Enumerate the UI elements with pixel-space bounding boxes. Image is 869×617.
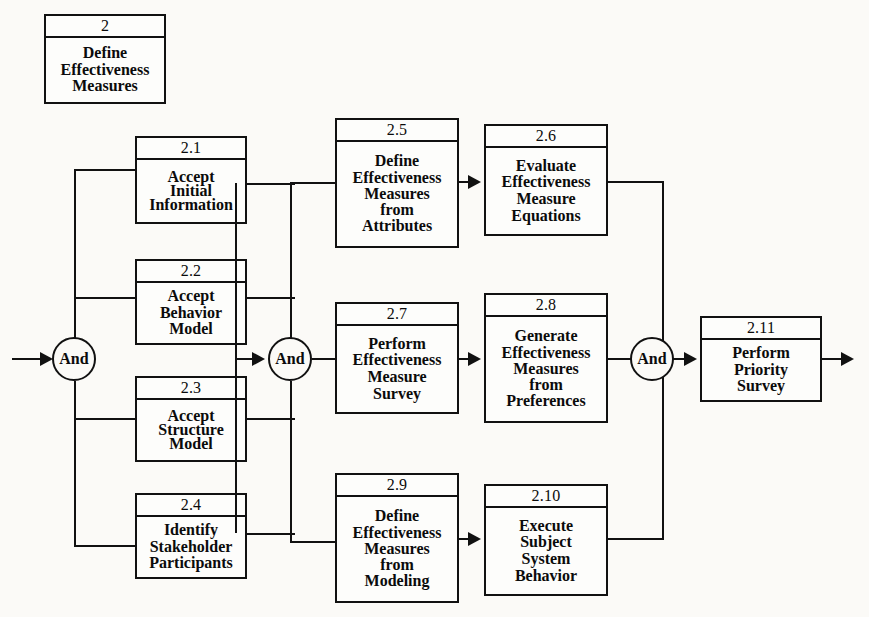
connector-and2-to-2-5 <box>290 182 337 184</box>
box-number: 2.11 <box>702 318 820 340</box>
and-gate-label: And <box>275 350 304 368</box>
arrowhead-2-7-to-2-8 <box>468 352 481 366</box>
connector-and1-to-2-2 <box>74 297 137 299</box>
and-gate-3: And <box>630 337 674 381</box>
and-gate-label: And <box>59 350 88 368</box>
process-box-2-7: 2.7 Perform Effectiveness Measure Survey <box>335 302 459 414</box>
box-label: Execute Subject System Behavior <box>486 508 606 594</box>
connector-and1-spine-down <box>74 381 76 546</box>
process-box-2-10: 2.10 Execute Subject System Behavior <box>484 484 608 596</box>
box-number: 2 <box>46 16 164 38</box>
arrowhead-input-and1 <box>40 352 53 366</box>
box-label: Define Effectiveness Measures from Model… <box>337 497 457 601</box>
box-number: 2.3 <box>137 378 245 400</box>
connector-2-4-out <box>245 533 295 535</box>
process-box-2-8: 2.8 Generate Effectiveness Measures from… <box>484 293 608 423</box>
box-label: Evaluate Effectiveness Measure Equations <box>486 148 606 234</box>
and-gate-label: And <box>637 350 666 368</box>
process-box-2-3: 2.3 Accept Structure Model <box>135 376 247 462</box>
process-box-2: 2 Define Effectiveness Measures <box>44 14 166 104</box>
process-box-2-1: 2.1 Accept Initial Information <box>135 136 247 224</box>
connector-and1-to-2-3 <box>74 418 137 420</box>
arrowhead-2-5-to-2-6 <box>468 175 481 189</box>
process-box-2-4: 2.4 Identify Stakeholder Participants <box>135 493 247 579</box>
box-label: Identify Stakeholder Participants <box>137 517 245 577</box>
box-number: 2.8 <box>486 295 606 317</box>
box-label: Perform Priority Survey <box>702 340 820 400</box>
box-number: 2.9 <box>337 475 457 497</box>
process-box-2-5: 2.5 Define Effectiveness Measures from A… <box>335 118 459 248</box>
process-box-2-2: 2.2 Accept Behavior Model <box>135 259 247 345</box>
flowchart-canvas: 2 Define Effectiveness Measures 2.1 Acce… <box>0 0 869 617</box>
arrowhead-2-9-to-2-10 <box>468 532 481 546</box>
box-label: Define Effectiveness Measures <box>46 38 164 102</box>
box-label: Accept Structure Model <box>137 400 245 460</box>
box-label: Define Effectiveness Measures from Attri… <box>337 142 457 246</box>
connector-2-2-out <box>245 297 295 299</box>
connector-and1-to-2-1 <box>74 169 137 171</box>
box-number: 2.1 <box>137 138 245 160</box>
connector-2-3-out <box>245 418 295 420</box>
box-label: Accept Initial Information <box>137 160 245 222</box>
box-number: 2.10 <box>486 486 606 508</box>
arrowhead-into-and2 <box>252 352 265 366</box>
box-label: Perform Effectiveness Measure Survey <box>337 326 457 412</box>
connector-and1-spine-up <box>74 169 76 338</box>
connector-and2-spine-up <box>290 182 292 338</box>
process-box-2-11: 2.11 Perform Priority Survey <box>700 316 822 402</box>
box-number: 2.4 <box>137 495 245 517</box>
connector-2-6-out <box>606 181 664 183</box>
arrowhead-into-2-11 <box>684 352 697 366</box>
connector-and1-to-2-4 <box>74 545 137 547</box>
connector-2-1-out <box>245 183 295 185</box>
box-label: Generate Effectiveness Measures from Pre… <box>486 317 606 421</box>
process-box-2-9: 2.9 Define Effectiveness Measures from M… <box>335 473 459 603</box>
connector-and2-to-2-7 <box>312 358 337 360</box>
box-label: Accept Behavior Model <box>137 283 245 343</box>
connector-and2-spine-down <box>290 381 292 543</box>
process-box-2-6: 2.6 Evaluate Effectiveness Measure Equat… <box>484 124 608 236</box>
connector-2-10-out <box>606 538 664 540</box>
and-gate-1: And <box>52 337 96 381</box>
box-number: 2.2 <box>137 261 245 283</box>
box-number: 2.7 <box>337 304 457 326</box>
arrowhead-output <box>841 352 854 366</box>
connector-and2-to-2-9 <box>290 541 337 543</box>
and-gate-2: And <box>268 337 312 381</box>
box-number: 2.6 <box>486 126 606 148</box>
connector-input-line <box>12 358 42 360</box>
box-number: 2.5 <box>337 120 457 142</box>
